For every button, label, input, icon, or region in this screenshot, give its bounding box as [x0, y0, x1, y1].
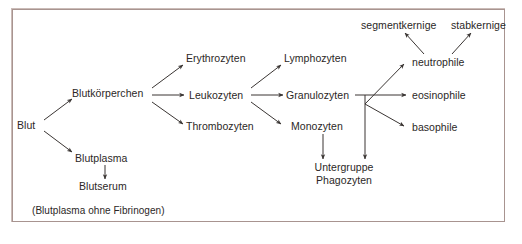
node-thrombozyten: Thrombozyten	[186, 120, 254, 133]
node-untergruppe-phagozyten: Untergruppe Phagozyten	[294, 161, 394, 186]
node-neutrophile: neutrophile	[412, 56, 465, 69]
diagram-figure: Blut Blutkörperchen Blutplasma Blutserum…	[0, 0, 522, 244]
node-stabkernige: stabkernige	[451, 19, 506, 32]
node-granulozyten: Granulozyten	[286, 89, 349, 102]
edge-neutrophile-segmentkernige	[405, 33, 424, 54]
node-blutserum: Blutserum	[79, 180, 127, 193]
edge-leukozyten-lymphozyten	[251, 65, 281, 88]
node-basophile: basophile	[412, 121, 457, 134]
node-leukozyten: Leukozyten	[189, 89, 243, 102]
edge-leukozyten-monozyten	[251, 102, 281, 124]
untergruppe-phagozyten-line2: Phagozyten	[294, 174, 394, 187]
edge-blut-blutplasma	[44, 131, 72, 152]
node-blutkoerperchen: Blutkörperchen	[72, 87, 143, 100]
node-eosinophile: eosinophile	[412, 89, 466, 102]
edge-blutkoerperchen-thrombozyten	[152, 102, 183, 124]
edge-neutrophile-stabkernige	[452, 33, 471, 54]
untergruppe-phagozyten-line1: Untergruppe	[294, 161, 394, 174]
edge-granulozyten-neutrophile	[365, 64, 404, 104]
node-blut: Blut	[17, 119, 35, 132]
node-monozyten: Monozyten	[291, 120, 343, 133]
edge-blutkoerperchen-erythrozyten	[152, 65, 183, 88]
node-lymphozyten: Lymphozyten	[284, 52, 347, 65]
node-erythrozyten: Erythrozyten	[186, 52, 246, 65]
node-blutplasma-note: (Blutplasma ohne Fibrinogen)	[32, 205, 165, 218]
granulozyten-bracket-stub	[355, 95, 365, 104]
edge-granulozyten-basophile	[365, 104, 404, 126]
node-blutplasma: Blutplasma	[75, 152, 127, 165]
edge-blut-blutkoerperchen	[44, 99, 72, 120]
node-segmentkernige: segmentkernige	[361, 19, 436, 32]
